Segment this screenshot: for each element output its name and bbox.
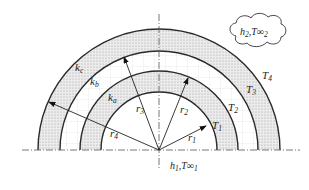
- label-t4: T4: [262, 69, 272, 83]
- diagram-canvas: kc kb ka r1 r2 r3 r4 T1 T2 T3 T4 h2,T∞2 …: [0, 0, 309, 190]
- label-inner-convection: h1,T∞1: [170, 160, 198, 173]
